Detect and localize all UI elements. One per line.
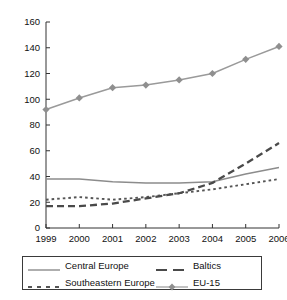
- y-tick-label: 100: [24, 94, 40, 105]
- legend-swatch-dashed-icon: [155, 261, 189, 271]
- data-point-marker: [142, 81, 149, 88]
- x-tick-label: 2006: [268, 233, 287, 244]
- legend-item-baltics: Baltics: [153, 257, 263, 274]
- legend-swatch-solid-icon: [27, 261, 61, 271]
- plot-area: 020406080100120140160 199920002001200220…: [0, 0, 287, 248]
- y-tick-label: 0: [35, 222, 40, 233]
- x-tick-label: 2005: [235, 233, 256, 244]
- x-tick-label: 2000: [69, 233, 90, 244]
- y-tick-label: 60: [29, 145, 40, 156]
- legend-label-central-europe: Central Europe: [65, 261, 129, 271]
- x-tick-label: 1999: [35, 233, 56, 244]
- y-axis-tick-labels: 020406080100120140160: [24, 16, 40, 233]
- line-chart: 020406080100120140160 199920002001200220…: [0, 0, 287, 300]
- data-point-marker: [76, 94, 83, 101]
- legend-swatch-diamond-line-icon: [155, 278, 189, 288]
- data-point-marker: [42, 106, 49, 113]
- legend-swatch-dotted-icon: [27, 278, 61, 288]
- legend-label-baltics: Baltics: [193, 261, 221, 271]
- y-tick-label: 20: [29, 197, 40, 208]
- x-tick-label: 2003: [169, 233, 190, 244]
- y-tick-label: 140: [24, 42, 40, 53]
- series-paths: [46, 46, 279, 206]
- y-tick-label: 160: [24, 16, 40, 27]
- data-point-marker: [176, 76, 183, 83]
- x-tick-label: 2001: [102, 233, 123, 244]
- legend-item-southeastern-europe: Southeastern Europe: [23, 274, 153, 291]
- x-axis-tick-labels: 19992000200120022003200420052006: [35, 233, 287, 244]
- y-tick-label: 40: [29, 171, 40, 182]
- legend-item-central-europe: Central Europe: [23, 257, 153, 274]
- series-line-southeastern-europe: [46, 179, 279, 200]
- x-tick-label: 2002: [135, 233, 156, 244]
- chart-svg: 020406080100120140160 199920002001200220…: [0, 0, 287, 248]
- legend-label-southeastern-europe: Southeastern Europe: [65, 278, 155, 288]
- y-tick-label: 120: [24, 68, 40, 79]
- data-point-marker: [242, 56, 249, 63]
- legend-item-eu-15: EU-15: [153, 274, 263, 291]
- data-point-marker: [109, 84, 116, 91]
- y-tick-label: 80: [29, 119, 40, 130]
- data-point-marker: [209, 70, 216, 77]
- chart-legend: Central Europe Baltics Southeastern Euro…: [22, 256, 262, 290]
- x-tick-label: 2004: [202, 233, 223, 244]
- data-point-marker: [275, 43, 282, 50]
- series-line-eu-15: [46, 46, 279, 109]
- series-markers: [42, 43, 282, 113]
- series-line-central-europe: [46, 167, 279, 182]
- legend-label-eu-15: EU-15: [193, 278, 220, 288]
